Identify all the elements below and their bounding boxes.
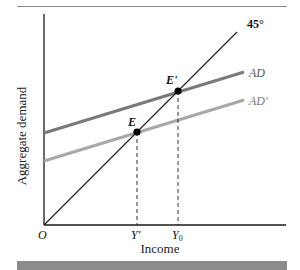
label-e: E [127, 115, 136, 129]
bottom-bar [17, 261, 287, 270]
label-origin: O [38, 228, 47, 242]
line-45 [44, 32, 237, 225]
label-ad: AD [248, 66, 265, 80]
label-ad-prime: AD' [248, 94, 268, 108]
ad-prime-line [44, 100, 244, 161]
label-45: 45° [247, 17, 264, 31]
x-axis-label: Income [120, 241, 200, 257]
point-e-prime [174, 87, 181, 94]
chart-plot: 45° AD AD' E' E O Y' Y0 [0, 0, 300, 270]
tick-y-prime: Y' [131, 228, 141, 242]
label-e-prime: E' [165, 73, 178, 87]
ad-line [44, 72, 244, 133]
y-axis-label: Aggregate demand [14, 76, 30, 196]
point-e [133, 128, 140, 135]
